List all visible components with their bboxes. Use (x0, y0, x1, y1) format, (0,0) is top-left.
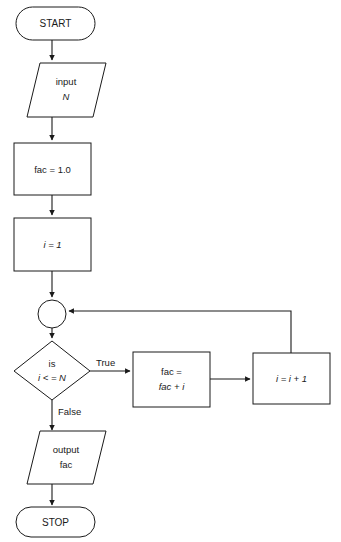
node-stop-label: STOP (42, 517, 69, 528)
node-accumulate (133, 352, 210, 407)
node-connector-junction (38, 300, 66, 328)
edge-label-false: False (58, 406, 81, 417)
node-decision-label-line1: is (49, 358, 56, 369)
node-output-label-line2: fac (60, 459, 73, 470)
node-accumulate-label-line1: fac = (161, 366, 182, 377)
node-decision-label-line2: i < = N (38, 372, 66, 383)
node-init-i-label: i = 1 (43, 239, 61, 250)
edge-increment-to-connector-feedback (69, 311, 291, 353)
node-output-label-line1: output (53, 444, 80, 455)
node-increment-label: i = i + 1 (276, 373, 307, 384)
node-decision (14, 341, 90, 400)
node-output (27, 431, 106, 484)
node-accumulate-label-line2: fac + i (159, 381, 185, 392)
flowchart-canvas: START input N fac = 1.0 i = 1 is i < = N… (0, 0, 341, 542)
edge-label-true: True (96, 357, 115, 368)
node-input-label-line2: N (63, 91, 70, 102)
node-init-fac-label: fac = 1.0 (34, 164, 71, 175)
node-start-label: START (40, 18, 72, 29)
node-input-label-line1: input (56, 76, 77, 87)
flowchart-diagram: START input N fac = 1.0 i = 1 is i < = N… (0, 0, 341, 542)
